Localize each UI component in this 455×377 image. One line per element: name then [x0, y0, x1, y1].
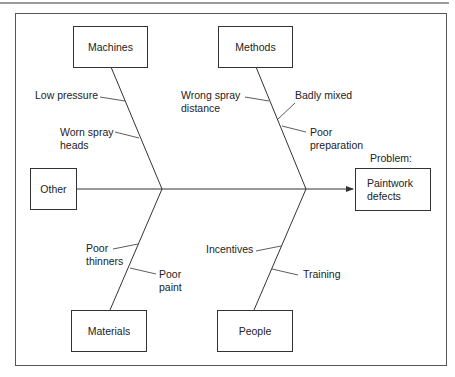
category-label: Other: [40, 183, 66, 195]
cause-incentives: Incentives: [206, 243, 253, 256]
category-methods: Methods: [218, 26, 293, 68]
category-label: Methods: [235, 41, 275, 53]
category-machines: Machines: [73, 26, 148, 68]
cause-wrong-spray-distance: Wrong spray distance: [181, 89, 240, 115]
tick-low-pressure: [100, 97, 125, 101]
category-other: Other: [30, 168, 77, 210]
tick-badly-mixed: [277, 103, 295, 120]
cause-worn-spray-heads: Worn spray heads: [60, 126, 114, 152]
category-materials: Materials: [71, 310, 147, 352]
tick-worn-spray-heads: [115, 132, 139, 138]
category-label: Materials: [88, 325, 131, 337]
problem-box: Paintwork defects: [355, 168, 431, 211]
cause-poor-paint: Poor paint: [159, 268, 182, 294]
tick-wrong-spray-distance: [245, 97, 269, 101]
category-people: People: [217, 310, 293, 352]
tick-incentives: [256, 246, 281, 251]
machines-bone: [111, 67, 162, 189]
category-label: Machines: [88, 41, 133, 53]
methods-bone: [256, 67, 306, 189]
tick-poor-preparation: [282, 126, 306, 132]
problem-heading: Problem:: [370, 152, 412, 165]
cause-low-pressure: Low pressure: [35, 89, 98, 102]
tick-poor-paint: [130, 268, 156, 274]
category-label: People: [239, 325, 272, 337]
cause-poor-thinners: Poor thinners: [86, 242, 123, 268]
cause-training: Training: [303, 268, 341, 281]
cause-badly-mixed: Badly mixed: [295, 89, 352, 102]
tick-training: [272, 269, 298, 275]
cause-poor-preparation: Poor preparation: [310, 126, 363, 152]
problem-text: Paintwork defects: [367, 177, 413, 203]
